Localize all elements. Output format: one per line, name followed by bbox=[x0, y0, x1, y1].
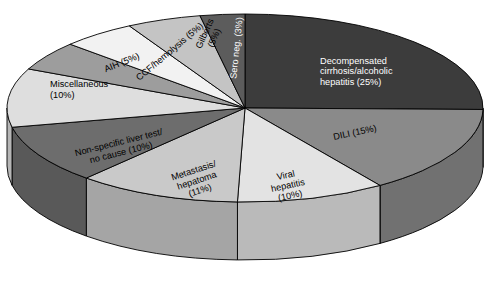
slice-label-5-line-0: Miscellaneous bbox=[50, 79, 109, 89]
pie-chart-svg: Decompensated cirrhosis/alcoholic hepati… bbox=[0, 0, 491, 297]
slice-label-0-line-0: Decompensated bbox=[320, 56, 387, 66]
pie-top-slices: Decompensated cirrhosis/alcoholic hepati… bbox=[7, 14, 483, 202]
slice-label-0-line-1: cirrhosis/alcoholic bbox=[320, 66, 393, 76]
slice-label-0-line-2: hepatitis (25%) bbox=[320, 77, 381, 87]
pie-chart-container: Decompensated cirrhosis/alcoholic hepati… bbox=[0, 0, 491, 297]
slice-label-5-line-1: (10%) bbox=[50, 90, 75, 100]
